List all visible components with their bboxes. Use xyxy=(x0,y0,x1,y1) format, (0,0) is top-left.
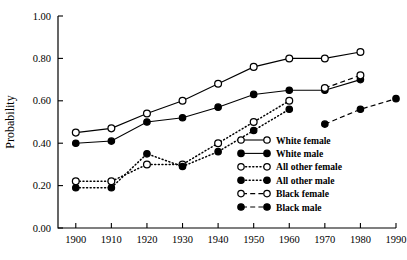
legend-marker xyxy=(238,150,244,156)
legend-marker xyxy=(238,190,244,196)
data-point xyxy=(215,80,222,87)
x-tick-label: 1980 xyxy=(350,234,371,245)
data-point xyxy=(250,63,257,70)
x-tick-label: 1960 xyxy=(279,234,300,245)
data-point xyxy=(144,161,151,168)
data-point xyxy=(357,106,363,112)
legend-marker xyxy=(238,164,244,170)
data-point xyxy=(144,110,151,117)
data-point xyxy=(72,178,79,185)
x-tick-label: 1920 xyxy=(136,234,157,245)
data-point xyxy=(108,185,114,191)
data-point xyxy=(357,72,364,79)
x-tick-label: 1910 xyxy=(101,234,122,245)
legend-label: All other male xyxy=(276,175,335,186)
data-point xyxy=(179,115,185,121)
data-point xyxy=(72,129,79,136)
data-point xyxy=(108,178,115,185)
legend-label: White female xyxy=(276,135,331,146)
data-point xyxy=(215,140,222,147)
x-tick-label: 1990 xyxy=(386,234,407,245)
data-point xyxy=(144,151,150,157)
legend-marker xyxy=(238,137,244,143)
y-tick-label: 1.00 xyxy=(33,11,51,22)
probability-line-chart: 0.000.200.400.600.801.00 190019101920193… xyxy=(0,0,407,260)
legend-marker xyxy=(238,177,244,183)
legend-marker xyxy=(238,204,244,210)
x-tick-label: 1970 xyxy=(314,234,335,245)
x-tick-label: 1900 xyxy=(65,234,86,245)
data-point xyxy=(321,85,328,92)
y-axis-label-group: Probability xyxy=(3,95,17,148)
legend-marker xyxy=(264,177,270,183)
legend-marker xyxy=(264,190,270,196)
y-tick-label: 0.80 xyxy=(33,53,51,64)
data-point xyxy=(250,91,256,97)
data-point xyxy=(144,119,150,125)
data-point xyxy=(215,148,221,154)
legend-marker xyxy=(264,204,270,210)
data-point xyxy=(286,97,293,104)
y-axis-label: Probability xyxy=(3,95,17,148)
data-point xyxy=(179,97,186,104)
legend-marker xyxy=(264,137,270,143)
chart-background xyxy=(0,0,407,260)
data-point xyxy=(108,125,115,132)
data-point xyxy=(250,127,256,133)
x-tick-label: 1940 xyxy=(208,234,229,245)
data-point xyxy=(73,140,79,146)
legend-label: Black male xyxy=(276,202,322,213)
data-point xyxy=(286,87,292,93)
data-point xyxy=(215,104,221,110)
legend-label: White male xyxy=(276,148,324,159)
data-point xyxy=(321,55,328,62)
data-point xyxy=(250,119,257,126)
data-point xyxy=(286,106,292,112)
x-tick-label: 1950 xyxy=(243,234,264,245)
x-tick-label: 1930 xyxy=(172,234,193,245)
y-tick-label: 0.00 xyxy=(33,223,51,234)
data-point xyxy=(108,138,114,144)
legend-label: All other female xyxy=(276,161,343,172)
data-point xyxy=(322,121,328,127)
data-point xyxy=(73,185,79,191)
legend-marker xyxy=(264,164,270,170)
legend-marker xyxy=(264,150,270,156)
legend-label: Black female xyxy=(276,188,330,199)
data-point xyxy=(393,95,399,101)
data-point xyxy=(357,49,364,56)
y-tick-label: 0.60 xyxy=(33,95,51,106)
data-point xyxy=(179,163,185,169)
data-point xyxy=(286,55,293,62)
y-tick-label: 0.40 xyxy=(33,138,51,149)
chart-canvas: 0.000.200.400.600.801.00 190019101920193… xyxy=(0,0,407,260)
y-tick-label: 0.20 xyxy=(33,180,51,191)
